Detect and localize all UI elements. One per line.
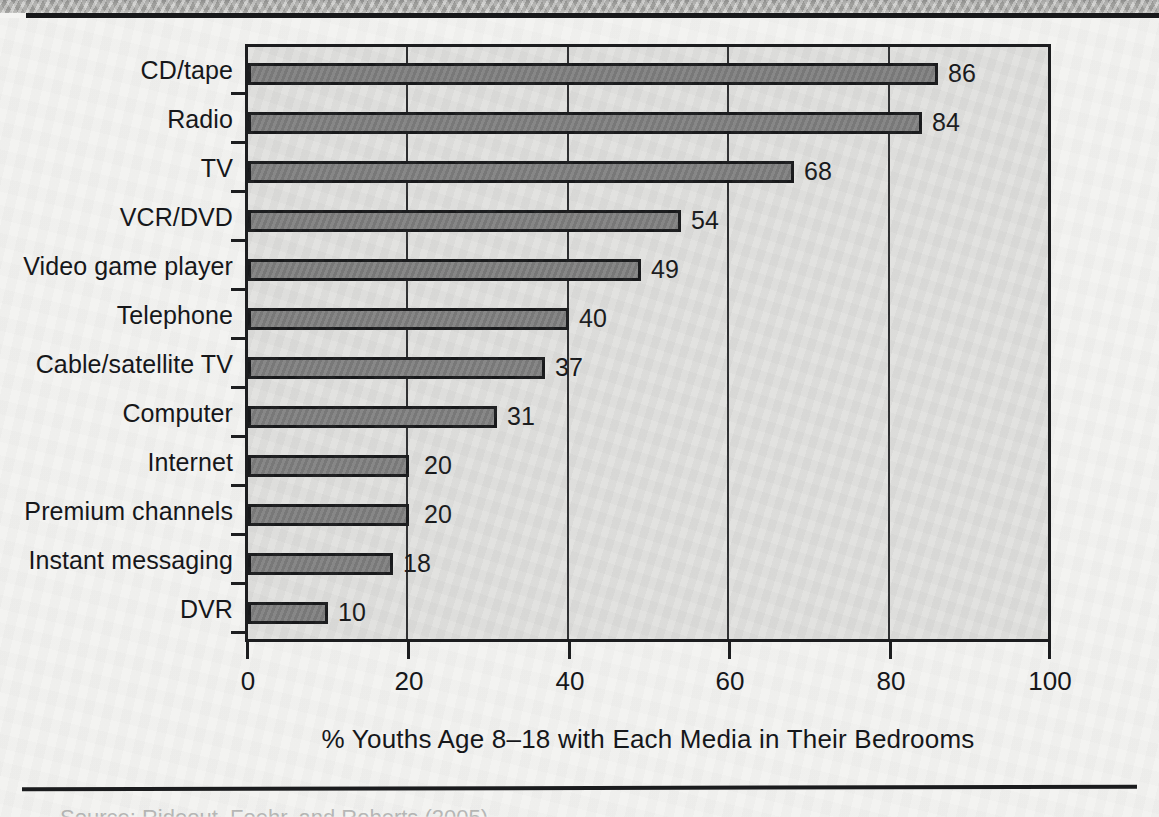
bar-computer — [248, 406, 497, 428]
category-label-premium-channels: Premium channels — [0, 497, 233, 526]
category-label-tv: TV — [0, 154, 233, 183]
bar-value-label: 10 — [338, 598, 366, 627]
category-label-computer: Computer — [0, 399, 233, 428]
bar-tv — [248, 161, 794, 183]
category-label-cable-satellite-tv: Cable/satellite TV — [0, 350, 233, 379]
gridline-40 — [567, 47, 569, 639]
y-axis-tick — [231, 239, 245, 242]
x-axis-tick-label: 20 — [395, 666, 424, 697]
category-label-internet: Internet — [0, 448, 233, 477]
gridline-80 — [888, 47, 890, 639]
category-label-video-game-player: Video game player — [0, 252, 233, 281]
bar-value-label: 31 — [507, 402, 535, 431]
bar-radio — [248, 112, 922, 134]
source-citation: Source: Rideout, Foehr, and Roberts (200… — [60, 805, 488, 817]
bar-value-label: 18 — [403, 549, 431, 578]
y-axis-tick — [231, 484, 245, 487]
category-label-instant-messaging: Instant messaging — [0, 546, 233, 575]
category-label-telephone: Telephone — [0, 301, 233, 330]
bar-instant-messaging — [248, 553, 393, 575]
x-axis-tick — [246, 642, 249, 659]
x-axis-tick — [568, 642, 571, 659]
x-axis-tick-label: 80 — [877, 666, 906, 697]
bar-chart: 86 84 68 54 49 40 37 31 — [0, 0, 1159, 817]
x-axis-tick — [728, 642, 731, 659]
category-label-dvr: DVR — [0, 595, 233, 624]
bar-value-label: 84 — [932, 108, 960, 137]
x-axis-tick-label: 0 — [241, 666, 255, 697]
bar-value-label: 40 — [579, 304, 607, 333]
bar-cable-satellite-tv — [248, 357, 545, 379]
y-axis-tick — [231, 533, 245, 536]
x-axis-title: % Youths Age 8–18 with Each Media in The… — [245, 724, 1051, 755]
y-axis-tick — [231, 582, 245, 585]
x-axis-tick-label: 60 — [716, 666, 745, 697]
bar-internet — [248, 455, 409, 477]
x-axis-tick-label: 40 — [556, 666, 585, 697]
bar-value-label: 49 — [651, 255, 679, 284]
y-axis-tick — [231, 141, 245, 144]
bar-value-label: 54 — [691, 206, 719, 235]
x-axis-tick — [1048, 642, 1051, 659]
bar-video-game-player — [248, 259, 641, 281]
bar-value-label: 68 — [804, 157, 832, 186]
y-axis-tick — [231, 92, 245, 95]
y-axis-tick — [231, 190, 245, 193]
category-label-cd-tape: CD/tape — [0, 56, 233, 85]
bar-vcr-dvd — [248, 210, 681, 232]
y-axis-tick — [231, 337, 245, 340]
bar-cd-tape — [248, 63, 938, 85]
y-axis-tick — [231, 288, 245, 291]
bar-value-label: 37 — [555, 353, 583, 382]
x-axis-tick — [889, 642, 892, 659]
x-axis-tick-label: 100 — [1028, 666, 1071, 697]
y-axis-tick — [231, 386, 245, 389]
y-axis-tick — [231, 631, 245, 634]
plot-area: 86 84 68 54 49 40 37 31 — [245, 44, 1051, 642]
bar-premium-channels — [248, 504, 409, 526]
bar-value-label: 20 — [424, 451, 452, 480]
category-label-vcr-dvd: VCR/DVD — [0, 203, 233, 232]
bar-telephone — [248, 308, 569, 330]
gridline-60 — [727, 47, 729, 639]
category-label-radio: Radio — [0, 105, 233, 134]
bar-value-label: 20 — [424, 500, 452, 529]
x-axis-tick — [407, 642, 410, 659]
y-axis-tick — [231, 435, 245, 438]
bar-value-label: 86 — [948, 59, 976, 88]
bar-dvr — [248, 602, 328, 624]
